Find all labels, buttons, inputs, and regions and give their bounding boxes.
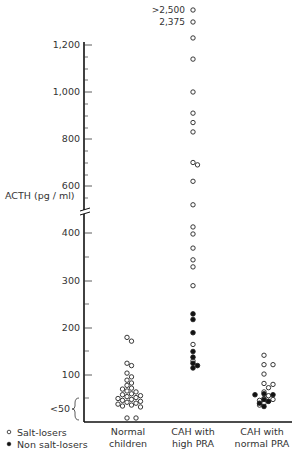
filled-data-point: [191, 312, 196, 317]
open-data-point: [129, 392, 133, 396]
open-data-point: [262, 353, 266, 357]
open-data-point: [191, 246, 195, 250]
open-data-point: [191, 265, 195, 269]
filled-data-point: [191, 355, 196, 360]
category-label: CAH with: [171, 426, 214, 437]
y-tick-label: 800: [62, 133, 80, 144]
open-data-point: [129, 381, 133, 385]
open-data-point: [191, 225, 195, 229]
filled-data-point: [191, 330, 196, 335]
open-data-point: [134, 390, 138, 394]
open-data-point: [125, 378, 129, 382]
open-data-point: [120, 393, 124, 397]
open-data-point: [120, 398, 124, 402]
open-data-point: [191, 36, 195, 40]
open-data-point: [191, 90, 195, 94]
category-label: high PRA: [172, 438, 215, 449]
legend-label: Non salt-losers: [17, 439, 88, 450]
filled-data-point: [191, 349, 196, 354]
category-label: children: [109, 438, 147, 449]
open-data-point: [125, 389, 129, 393]
filled-circle-icon: [7, 442, 11, 446]
open-data-point: [191, 232, 195, 236]
y-tick-label: 1,200: [53, 39, 80, 50]
open-data-point: [266, 385, 270, 389]
value-annotation: 2,375: [159, 17, 185, 27]
category-label: normal PRA: [235, 438, 290, 449]
open-data-point: [134, 395, 138, 399]
filled-data-point: [195, 363, 200, 368]
open-data-point: [138, 393, 142, 397]
open-data-point: [195, 163, 199, 167]
open-data-point: [271, 382, 275, 386]
open-data-point: [129, 386, 133, 390]
open-data-point: [129, 375, 133, 379]
open-data-point: [138, 399, 142, 403]
filled-data-point: [262, 392, 267, 397]
open-data-point: [125, 394, 129, 398]
y-axis-label: ACTH (pg / ml): [5, 190, 75, 201]
y-tick-label: 1,000: [53, 86, 80, 97]
open-data-point: [134, 401, 138, 405]
filled-data-point: [257, 401, 262, 406]
open-data-point: [116, 402, 120, 406]
y-tick-label: <50: [50, 403, 70, 414]
open-data-point: [191, 57, 195, 61]
legend-label: Salt-losers: [17, 427, 67, 438]
open-data-point: [191, 120, 195, 124]
open-data-point: [262, 372, 266, 376]
open-data-point: [262, 381, 266, 385]
y-tick-label: 400: [62, 227, 80, 238]
open-data-point: [134, 416, 138, 420]
y-tick-label: 200: [62, 322, 80, 333]
open-data-point: [129, 363, 133, 367]
filled-data-point: [191, 366, 196, 371]
open-data-point: [120, 404, 124, 408]
open-data-point: [191, 111, 195, 115]
open-data-point: [116, 396, 120, 400]
open-data-point: [191, 203, 195, 207]
open-data-point: [125, 400, 129, 404]
open-data-point: [191, 160, 195, 164]
y-tick-label: 100: [62, 369, 80, 380]
y-tick-label: 300: [62, 275, 80, 286]
category-label: CAH with: [240, 426, 283, 437]
y-axis: [72, 42, 292, 422]
open-data-point: [262, 362, 266, 366]
category-label: Normal: [111, 426, 145, 437]
filled-data-point: [262, 397, 267, 402]
open-data-point: [125, 383, 129, 387]
open-data-point: [125, 335, 129, 339]
open-data-point: [191, 284, 195, 288]
open-data-point: [191, 258, 195, 262]
filled-data-point: [253, 392, 258, 397]
open-data-point: [271, 362, 275, 366]
open-data-point: [120, 387, 124, 391]
open-data-point: [191, 342, 195, 346]
open-data-point: [125, 361, 129, 365]
filled-data-point: [262, 404, 267, 409]
open-data-point: [191, 8, 195, 12]
open-data-point: [125, 416, 129, 420]
open-data-point: [271, 397, 275, 401]
labels: 1,2001,000800600400300200100<50ACTH (pg …: [5, 5, 290, 450]
filled-data-point: [271, 392, 276, 397]
open-data-point: [191, 179, 195, 183]
filled-data-point: [191, 317, 196, 322]
open-data-point: [191, 20, 195, 24]
acth-scatter-chart: 1,2001,000800600400300200100<50ACTH (pg …: [0, 0, 293, 454]
open-data-point: [129, 403, 133, 407]
open-data-point: [266, 393, 270, 397]
open-data-point: [191, 130, 195, 134]
open-data-point: [129, 339, 133, 343]
filled-data-point: [191, 361, 196, 366]
data-points: [116, 8, 276, 420]
filled-data-point: [266, 399, 271, 404]
open-circle-icon: [7, 430, 11, 434]
open-data-point: [125, 371, 129, 375]
open-data-point: [129, 397, 133, 401]
open-data-point: [138, 405, 142, 409]
value-annotation: >2,500: [152, 5, 186, 15]
